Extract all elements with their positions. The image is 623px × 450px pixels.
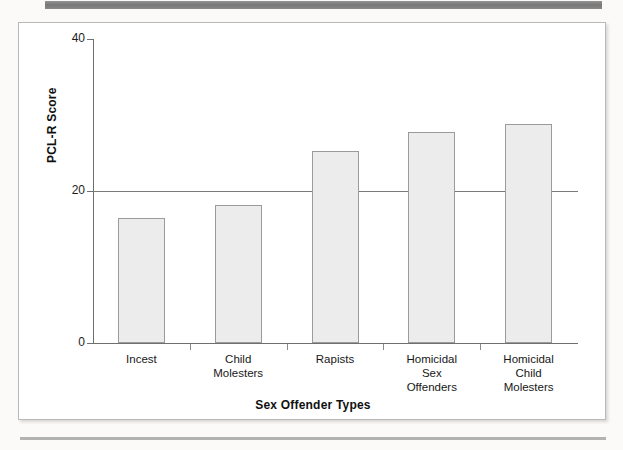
x-tick-3 (383, 344, 384, 350)
x-tick-2 (287, 344, 288, 350)
y-axis-title: PCL-R Score (45, 87, 59, 163)
x-tick-4 (480, 344, 481, 350)
bar-chart: 40200 IncestChild MolestersRapistsHomici… (19, 23, 605, 419)
y-tick-label-20: 20 (59, 183, 85, 197)
bar-0 (118, 218, 165, 343)
figure-frame: 40200 IncestChild MolestersRapistsHomici… (18, 22, 606, 420)
y-tick-0 (87, 343, 93, 344)
x-axis-label-2: Rapists (287, 352, 384, 366)
x-axis-label-1: Child Molesters (190, 352, 287, 380)
x-axis-line (93, 343, 578, 344)
x-axis-label-0: Incest (93, 352, 190, 366)
y-tick-label-40: 40 (59, 31, 85, 45)
bar-1 (215, 205, 262, 343)
page-rule-bottom (20, 437, 606, 440)
bar-2 (312, 151, 359, 343)
bar-3 (408, 132, 455, 343)
page-rule-top (45, 1, 602, 9)
bar-4 (505, 124, 552, 343)
x-axis-label-3: Homicidal Sex Offenders (383, 352, 480, 394)
x-axis-title: Sex Offender Types (19, 398, 607, 412)
y-tick-label-0: 0 (59, 335, 85, 349)
x-tick-1 (190, 344, 191, 350)
y-tick-40 (87, 39, 93, 40)
x-axis-label-4: Homicidal Child Molesters (480, 352, 577, 394)
